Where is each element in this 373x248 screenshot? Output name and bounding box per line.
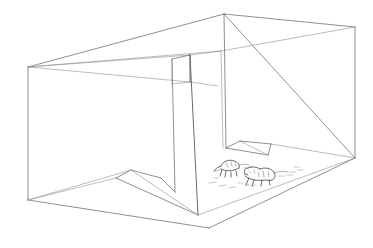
background-plane: [0, 0, 373, 248]
perspective-room-drawing: [0, 0, 373, 248]
drawing-canvas: Perspective line drawing of an empty roo…: [0, 0, 373, 248]
